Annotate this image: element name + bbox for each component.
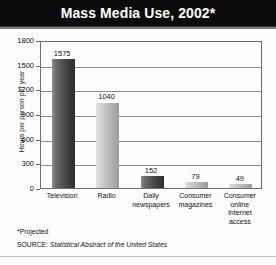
y-tick-label: 1200 <box>0 85 34 94</box>
y-tick-label: 1800 <box>0 36 34 45</box>
bar <box>96 103 119 189</box>
y-tick-label: 1500 <box>0 61 34 70</box>
category-label: Consumer online Internet access <box>214 192 266 226</box>
y-tick-label: 300 <box>0 159 34 168</box>
bar-value-label: 152 <box>131 166 171 175</box>
bar-value-label: 1040 <box>87 92 127 101</box>
source-label: SOURCE: <box>17 241 48 248</box>
chart-card: Mass Media Use, 2002* Hours per person p… <box>0 0 276 265</box>
bar <box>52 59 75 189</box>
footnote-projected: *Projected <box>17 228 48 235</box>
bar <box>185 182 208 188</box>
chart-title: Mass Media Use, 2002* <box>0 0 276 26</box>
bar-value-label: 79 <box>175 172 215 181</box>
bar-value-label: 1575 <box>42 49 82 58</box>
footnote-source: SOURCE: Statistical Abstract of the Unit… <box>17 241 167 248</box>
title-divider <box>0 26 276 29</box>
bottom-divider <box>0 256 276 257</box>
title-bar: Mass Media Use, 2002* <box>0 0 276 26</box>
y-tick-label: 600 <box>0 135 34 144</box>
bar <box>141 176 164 188</box>
y-tick-mark <box>36 189 40 190</box>
y-tick-label: 0 <box>0 184 34 193</box>
y-tick-label: 900 <box>0 110 34 119</box>
bar <box>229 184 252 188</box>
bar-value-label: 49 <box>220 174 260 183</box>
source-name: Statistical Abstract of the United State… <box>50 241 167 248</box>
